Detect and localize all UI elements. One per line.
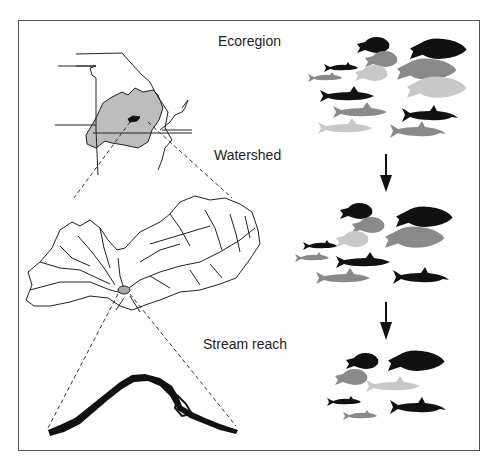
river-line bbox=[160, 100, 188, 130]
fish-group-watershed bbox=[295, 203, 453, 284]
watershed-streams bbox=[30, 210, 255, 312]
arrow-ecoregion-to-watershed bbox=[380, 154, 392, 192]
fish-group-stream-reach bbox=[327, 350, 446, 420]
fish-group-ecoregion bbox=[308, 37, 467, 138]
stream-reach-channel bbox=[48, 374, 238, 436]
zoom-lines-watershed-to-reach bbox=[48, 294, 236, 428]
stream-reach-location bbox=[118, 286, 130, 294]
watershed-outline bbox=[26, 196, 260, 310]
watershed-map bbox=[26, 196, 260, 312]
ecoregion-map bbox=[55, 53, 192, 175]
stream-reach-map bbox=[48, 374, 238, 436]
arrow-watershed-to-reach bbox=[380, 302, 392, 340]
ecoregion-shaded-area bbox=[86, 88, 163, 148]
